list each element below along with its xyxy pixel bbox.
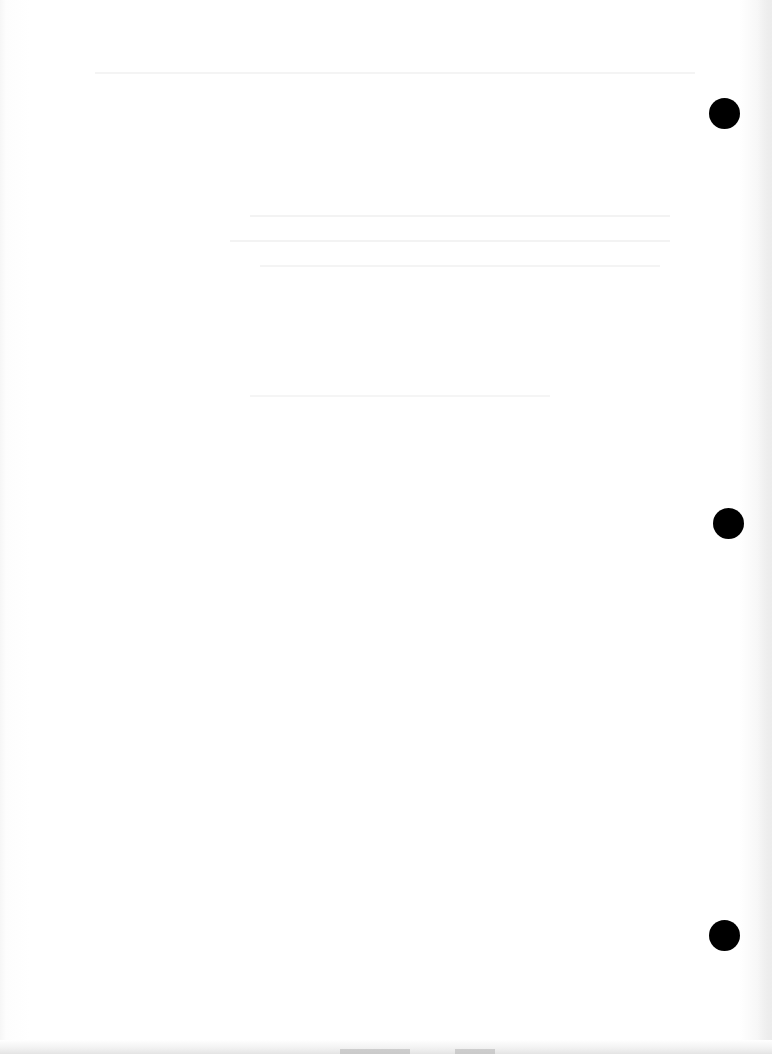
bottom-shadow-mark — [455, 1049, 495, 1054]
bleed-through-text — [230, 240, 670, 242]
punch-hole-top — [709, 98, 740, 129]
bleed-through-text — [250, 215, 670, 217]
bleed-through-text — [250, 395, 550, 397]
page-right-edge-shadow — [758, 0, 772, 1054]
punch-hole-middle — [713, 508, 744, 539]
scanned-page — [0, 0, 772, 1054]
bleed-through-text — [260, 265, 660, 267]
bottom-shadow-mark — [340, 1049, 410, 1054]
bleed-through-text — [95, 72, 695, 74]
punch-hole-bottom — [709, 920, 740, 951]
